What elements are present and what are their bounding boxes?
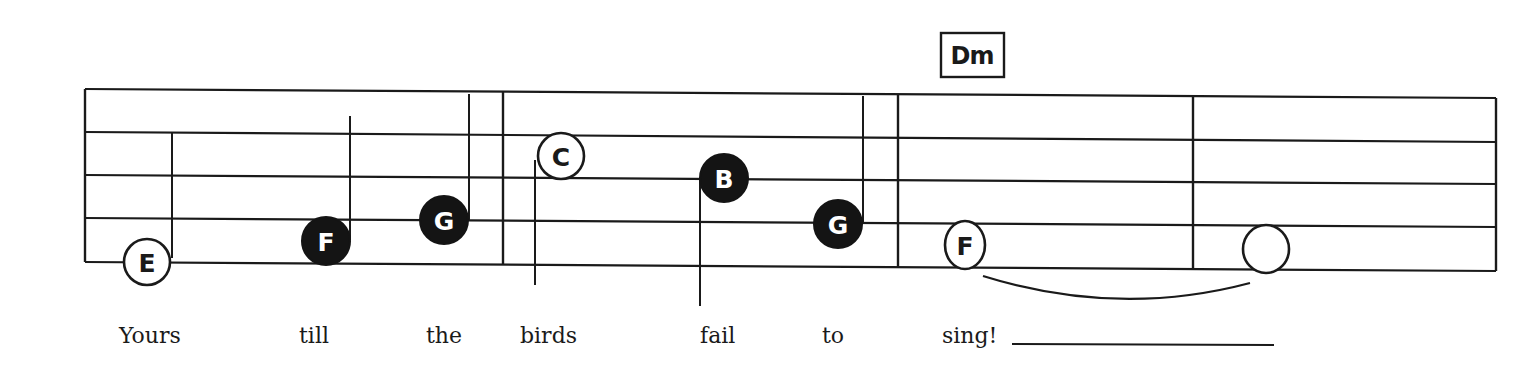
- note-letter: E: [138, 249, 155, 278]
- music-staff-score: Dm E F G C: [0, 0, 1526, 372]
- note-letter: F: [317, 228, 334, 257]
- note-2: F: [302, 217, 350, 265]
- note-4: C: [538, 133, 584, 179]
- stems: [172, 94, 863, 306]
- staff-line-2: [85, 132, 1496, 142]
- note-7: F: [945, 221, 985, 269]
- staff-line-4: [85, 218, 1496, 227]
- note-5: B: [700, 154, 748, 202]
- whole-note-head: [1243, 225, 1289, 273]
- lyric-word: sing!: [942, 323, 997, 348]
- lyrics: Yours till the birds fail to sing!: [118, 323, 1274, 348]
- note-letter: C: [552, 143, 570, 172]
- note-6: G: [814, 200, 862, 248]
- note-8: [1243, 225, 1289, 273]
- chord-label: Dm: [951, 42, 994, 70]
- staff-line-1: [85, 89, 1496, 98]
- lyric-word: the: [426, 323, 462, 348]
- staff-line-3: [85, 175, 1496, 184]
- note-1: E: [124, 239, 170, 285]
- lyric-word: till: [299, 323, 329, 348]
- lyric-word: to: [822, 323, 844, 348]
- note-letter: G: [434, 207, 455, 236]
- note-3: G: [420, 196, 468, 244]
- note-letter: F: [956, 232, 973, 261]
- lyric-word: birds: [520, 323, 577, 348]
- lyric-extender-line: [1012, 344, 1274, 345]
- chord-symbol: Dm: [941, 33, 1004, 77]
- lyric-word: fail: [700, 323, 735, 348]
- tie: [983, 276, 1250, 299]
- note-letter: G: [828, 211, 849, 240]
- lyric-word: Yours: [118, 323, 181, 348]
- note-letter: B: [714, 165, 733, 194]
